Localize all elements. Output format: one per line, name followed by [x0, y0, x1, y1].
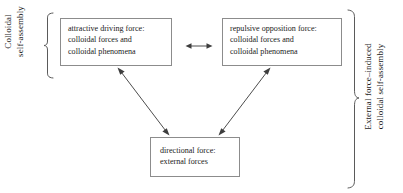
arrow-attractive-repulsive	[186, 43, 213, 48]
group-label-left: Colloidal self-assembly	[3, 0, 26, 68]
group-label-right: External force–induced colloidal self-as…	[363, 7, 386, 167]
arrow-repulsive-directional	[219, 68, 271, 136]
node-repulsive-opposition-force: repulsive opposition force: colloidal fo…	[222, 18, 342, 66]
right-brace-icon	[348, 10, 359, 188]
left-brace-icon	[44, 13, 53, 78]
node-attractive-driving-force: attractive driving force: colloidal forc…	[60, 18, 172, 66]
node-directional-force: directional force: external forces	[150, 137, 240, 177]
diagram-canvas: Colloidal self-assembly External force–i…	[0, 0, 403, 193]
arrow-attractive-directional	[118, 68, 170, 136]
